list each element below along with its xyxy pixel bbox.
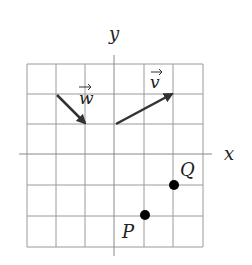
axes — [19, 55, 212, 256]
point-p-label: P — [121, 221, 135, 242]
vector-w-label: w — [79, 88, 94, 108]
coordinate-diagram: x y w v P Q — [0, 0, 252, 265]
grid — [27, 64, 203, 247]
x-axis-label: x — [224, 143, 234, 164]
point-p: P — [121, 210, 150, 242]
vector-v-label: v — [150, 72, 160, 92]
vector-w: w — [57, 84, 94, 123]
point-q-label: Q — [180, 159, 195, 180]
y-axis-label: y — [108, 23, 120, 44]
